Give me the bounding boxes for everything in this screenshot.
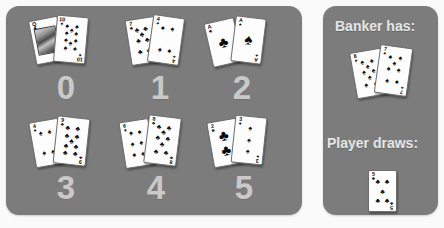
hand-total-label-2: 2 [196,71,288,104]
hand-total-label-1: 1 [114,71,206,104]
hand-total-label-0: 0 [20,71,112,104]
pip-layout-9: ♣♣ ♣♣ ♣ ♣♣ ♣♣ [57,124,85,158]
card-three-spades: 3 ♠ 3 ♠ ♠ ♠ ♠ [231,114,268,165]
card-eight-clubs: 8 ♣ 8 ♣ ♣♣ ♣ ♣♣ ♣ ♣♣ [143,114,182,167]
pip-layout-3: ♠ ♠ ♠ [235,123,262,157]
pip-layout-8: ♣♣ ♣ ♣♣ ♣ ♣♣ [148,123,177,159]
pip-layout-5: ♣♣ ♣ ♣♣ [372,178,393,204]
hand-cell-5[interactable]: 2 ♣ 2 ♣ ♣ ♣ 3 ♠ [198,114,290,214]
hand-cell-4[interactable]: 6 ♠ 6 ♠ ♠♠ ♠♠ ♠♠ 8 ♣ [110,114,202,214]
banker-hand-art: 8 ♠ 8 ♠ ♠♠ ♠ ♠♠ ♠ ♠♠ 7 ♠ [349,44,415,98]
card-nine-clubs: 9 ♣ 9 ♣ ♣♣ ♣♣ ♣ ♣♣ ♣♣ [53,115,91,166]
hand-total-label-4: 4 [110,171,202,204]
card-four-spades: 4 ♠ 4 ♠ ♠♠ ♠♠ [147,14,185,66]
hand-total-label-5: 5 [198,171,290,204]
player-draws-label: Player draws: [327,135,418,151]
hand-cell-3[interactable]: 4 ♠ 4 ♠ ♠♠ ♠♠ 9 ♣ [20,114,112,214]
hand-total-label-3: 3 [20,171,112,204]
card-ace-spades: A ♠ A ♠ ♠ [230,15,266,64]
banker-has-label: Banker has: [335,18,415,34]
hand-cell-1[interactable]: 7 ♣ 7 ♣ ♣♣ ♣ ♣♣ ♣♣ 4 [114,14,206,114]
pip-layout-4: ♠♠ ♠♠ [152,22,180,57]
player-draw-card-art: 5 ♣ 5 ♣ ♣♣ ♣ ♣♣ [368,170,396,212]
hand-cell-0[interactable]: Q ♣ Q ♣ 10 ♠ 10 ♠ [20,14,112,114]
card-ten-spades: 10 ♠ 10 ♠ ♠♠ ♠♠ ♠ ♠♠ ♠ ♠♠ [53,15,89,65]
card-player-draw: 5 ♣ 5 ♣ ♣♣ ♣ ♣♣ [368,170,397,212]
screenshot-stage: Q ♣ Q ♣ 10 ♠ 10 ♠ [0,0,444,228]
hand-cell-2[interactable]: A ♣ A ♣ ♣ A ♠ [196,14,288,114]
card-banker-second: 7 ♠ 7 ♠ ♠♠ ♠ ♠♠ ♠♠ [374,44,413,97]
pip-layout-10: ♠♠ ♠♠ ♠ ♠♠ ♠ ♠♠ [58,23,85,56]
current-round-panel: Banker has: 8 ♠ 8 ♠ ♠♠ ♠ ♠♠ ♠ ♠♠ [323,6,438,215]
pip-layout-1: ♠ [235,24,261,57]
banker-hand-chart-panel: Q ♣ Q ♣ 10 ♠ 10 ♠ [6,6,302,215]
pip-layout-7: ♠♠ ♠ ♠♠ ♠♠ [379,52,408,88]
